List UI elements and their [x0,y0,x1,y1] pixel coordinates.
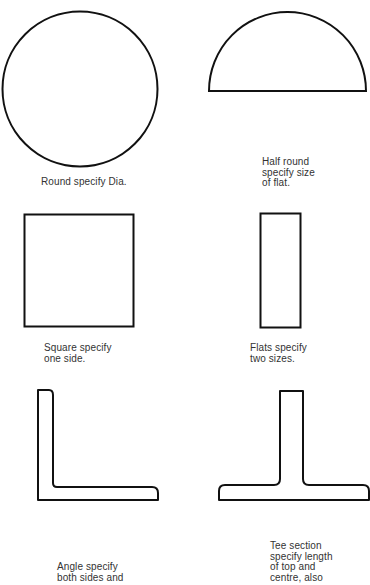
angle-caption: Angle specify both sides and [57,562,123,583]
metal-sections-diagram [0,0,370,585]
angle-section-shape [38,390,158,500]
round-bar-shape [3,12,158,167]
flat-bar-shape [261,214,301,328]
tee-caption: Tee section specify length of top and ce… [270,541,333,583]
half-round-bar-shape [209,12,366,91]
square-bar-shape [25,215,134,327]
flat-caption: Flats specify two sizes. [250,343,307,364]
tee-section-shape [219,391,369,500]
half-round-caption: Half round specify size of flat. [262,157,315,189]
square-caption: Square specify one side. [44,343,112,364]
round-caption: Round specify Dia. [41,177,127,188]
